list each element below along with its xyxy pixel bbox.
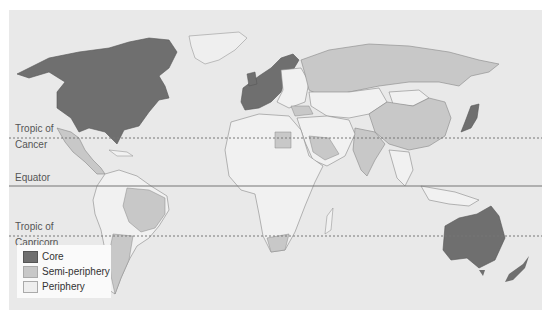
russia bbox=[301, 44, 499, 98]
tropic-of-cancer-label: Tropic of Cancer bbox=[15, 123, 54, 151]
greenland bbox=[189, 32, 247, 64]
mexico bbox=[57, 128, 105, 174]
equator-label: Equator bbox=[15, 172, 50, 184]
legend-item-core: Core bbox=[23, 249, 111, 264]
japan bbox=[461, 104, 479, 132]
core-swatch-icon bbox=[23, 251, 38, 263]
uk bbox=[247, 72, 257, 86]
map-legend: Core Semi-periphery Periphery bbox=[17, 245, 111, 298]
turkey bbox=[291, 106, 313, 116]
new-zealand bbox=[505, 256, 529, 282]
legend-item-semi-periphery: Semi-periphery bbox=[23, 264, 111, 279]
australia bbox=[443, 206, 505, 268]
periphery-swatch-icon bbox=[23, 281, 38, 293]
egypt bbox=[275, 132, 291, 148]
legend-item-periphery: Periphery bbox=[23, 279, 111, 294]
semi-periphery-swatch-icon bbox=[23, 266, 38, 278]
